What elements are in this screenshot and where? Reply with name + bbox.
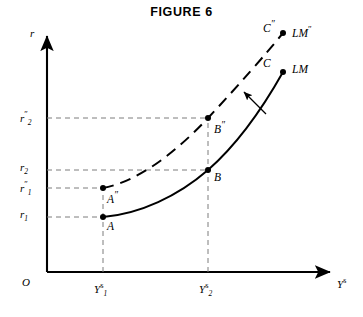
point-marker-b — [205, 167, 211, 173]
tick-sub: 1 — [28, 188, 32, 197]
point-marker-b2 — [205, 115, 211, 121]
y-tick-label-3: r1 — [20, 209, 28, 223]
y-tick-label-2: r″1 — [20, 180, 32, 196]
curve-label-sup: ″ — [308, 24, 312, 34]
shift-arrow — [244, 92, 266, 114]
vertical-guides — [103, 118, 208, 272]
lm-curve — [103, 72, 283, 217]
y-axis-label: r — [30, 28, 34, 39]
point-marker-a2 — [100, 185, 106, 191]
x-tick-label-1: Ys2 — [199, 281, 212, 297]
point-markers — [100, 30, 286, 220]
tick-sub: 1 — [24, 214, 28, 223]
point-label-sup: ″ — [114, 189, 118, 200]
point-label-sup: ″ — [271, 18, 275, 29]
curve-label-lm: LM — [292, 64, 308, 76]
tick-sub: 2 — [24, 167, 28, 176]
point-label-base: A — [107, 220, 114, 232]
y-tick-label-0: r″2 — [20, 110, 32, 126]
x-tick-label-0: Ys1 — [94, 281, 107, 297]
lm-shifted-curve — [103, 33, 283, 188]
point-label-a: A — [107, 221, 114, 233]
point-label-base: A — [107, 193, 114, 205]
x-axis-label: Ys — [337, 277, 346, 290]
point-marker-a — [100, 214, 106, 220]
curve-label-lm-shifted: LM″ — [292, 25, 312, 39]
point-label-a2: A″ — [107, 190, 118, 205]
point-label-b: B — [214, 172, 221, 184]
origin-label: O — [22, 277, 30, 288]
x-axis-label-sup: s — [343, 276, 346, 285]
point-label-base: C — [263, 22, 271, 34]
curve-label-base: LM — [292, 63, 308, 75]
point-label-b2: B″ — [214, 120, 225, 135]
point-label-c: C — [263, 58, 271, 70]
y-tick-label-1: r2 — [20, 162, 28, 176]
point-marker-c2 — [280, 30, 286, 36]
lm-curve-plot — [0, 0, 363, 317]
point-label-base: C — [263, 57, 271, 69]
point-label-c2: C″ — [263, 19, 275, 34]
tick-sub: 2 — [28, 118, 32, 127]
curve-label-base: LM — [292, 27, 308, 39]
horizontal-guides — [47, 118, 208, 217]
tick-sub: 1 — [103, 289, 107, 298]
point-label-base: B — [214, 123, 221, 135]
figure-container: FIGURE 6 — [0, 0, 363, 317]
point-label-sup: ″ — [221, 119, 225, 130]
point-marker-c — [280, 69, 286, 75]
tick-sub: 2 — [208, 289, 212, 298]
point-label-base: B — [214, 171, 221, 183]
